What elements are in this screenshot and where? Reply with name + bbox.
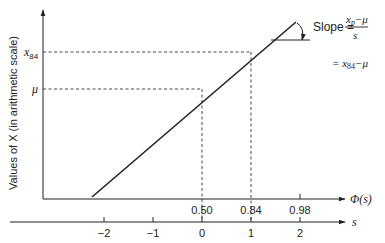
- phi-axis-label: Φ(s): [350, 192, 372, 206]
- s-tick-label-2: 2: [297, 227, 303, 239]
- slope-angle-arc: [297, 23, 303, 40]
- cdf-line: [92, 22, 296, 197]
- s-tick-label-neg1: −1: [147, 227, 160, 239]
- y-label-mu: μ: [31, 82, 38, 96]
- dashed-guides: [43, 52, 251, 222]
- slope-denominator: s: [353, 29, 357, 41]
- y-label-x84: x84: [23, 45, 39, 61]
- s-tick-label-neg2: −2: [98, 227, 111, 239]
- phi-tick-label-0.50: 0.50: [191, 204, 212, 216]
- y-axis-label: Values of X (in arithmetic scale): [7, 36, 19, 190]
- s-axis-label: s: [352, 215, 357, 229]
- slope-second-line: = x84−μ: [332, 57, 368, 71]
- s-tick-label-1: 1: [248, 227, 254, 239]
- slope-numerator: xp−μ: [345, 13, 368, 27]
- s-tick-label-0: 0: [199, 227, 205, 239]
- diagram-canvas: Values of X (in arithmetic scale) x84 μ …: [0, 0, 385, 243]
- phi-tick-label-0.84: 0.84: [240, 204, 261, 216]
- phi-tick-label-0.98: 0.98: [289, 204, 310, 216]
